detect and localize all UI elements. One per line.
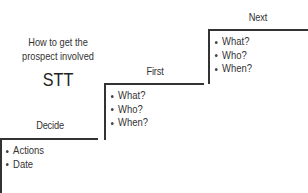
- bullet-item: What?: [214, 35, 252, 49]
- bullet-item: Date: [5, 158, 44, 172]
- bullet-item: Who?: [110, 103, 148, 117]
- acronym-label: STT: [16, 69, 101, 91]
- bullet-item: When?: [110, 116, 148, 130]
- bullet-item: What?: [110, 89, 148, 103]
- intro-question: How to get the prospect involved: [14, 35, 102, 63]
- step-first-top-line: [104, 83, 204, 85]
- step-decide-bullets: Actions Date: [5, 144, 48, 171]
- step-title-next: Next: [232, 11, 285, 23]
- step-title-first: First: [129, 65, 182, 77]
- bullet-item: Actions: [5, 144, 44, 158]
- step-title-decide: Decide: [6, 119, 94, 131]
- step-next-side-line: [208, 29, 210, 84]
- step-next-bullets: What? Who? When?: [214, 35, 256, 76]
- step-next-top-line: [208, 29, 308, 31]
- step-first-side-line: [104, 83, 106, 140]
- step-first-bullets: What? Who? When?: [110, 89, 152, 130]
- intro-question-line1: How to get the: [14, 35, 102, 49]
- step-decide-top-line: [0, 138, 98, 140]
- intro-question-line2: prospect involved: [14, 49, 102, 63]
- bullet-item: Who?: [214, 49, 252, 63]
- bullet-item: When?: [214, 62, 252, 76]
- step-decide-side-line: [0, 138, 2, 193]
